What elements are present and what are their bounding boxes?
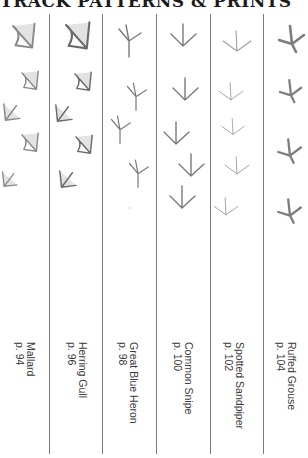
page-ref: p. 98 (117, 342, 128, 424)
great-blue-heron-tracks (112, 25, 149, 209)
herring-gull-tracks (56, 22, 92, 187)
species-name: Herring Gull (77, 342, 88, 398)
mallard-tracks (3, 24, 39, 187)
species-label-herring-gull: Herring Gull p. 96 (66, 342, 88, 398)
page-ref: p. 94 (14, 342, 25, 376)
page-ref: p. 102 (223, 342, 234, 429)
species-label-great-blue-heron: Great Blue Heron p. 98 (117, 342, 139, 424)
spotted-sandpiper-tracks (214, 31, 251, 215)
common-snipe-tracks (164, 24, 204, 208)
species-label-ruffed-grouse: Ruffed Grouse p. 104 (275, 342, 297, 410)
species-name: Common Snipe (183, 342, 194, 414)
species-label-common-snipe: Common Snipe p. 100 (172, 342, 194, 414)
species-name: Mallard (25, 342, 36, 376)
track-illustrations (0, 0, 308, 458)
page-ref: p. 104 (275, 342, 286, 410)
species-name: Ruffed Grouse (286, 342, 297, 410)
species-label-spotted-sandpiper: Spotted Sandpiper p. 102 (223, 342, 245, 429)
ruffed-grouse-tracks (278, 26, 304, 223)
page-ref: p. 100 (172, 342, 183, 414)
species-name: Spotted Sandpiper (234, 342, 245, 429)
species-name: Great Blue Heron (128, 342, 139, 424)
species-label-mallard: Mallard p. 94 (14, 342, 36, 376)
page-ref: p. 96 (66, 342, 77, 398)
